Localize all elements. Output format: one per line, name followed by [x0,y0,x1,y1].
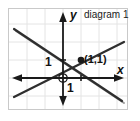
diagram-title: diagram 1 [84,10,128,20]
intersection-point-label: (1,1) [84,54,107,65]
x-axis-tick-label-one: 1 [67,82,74,94]
y-axis-tick-label-one: 1 [45,56,52,68]
y-axis-label: y [70,9,77,21]
diagram-figure: y x 1 1 (1,1) diagram 1 [0,0,140,121]
x-axis-label: x [117,64,124,76]
